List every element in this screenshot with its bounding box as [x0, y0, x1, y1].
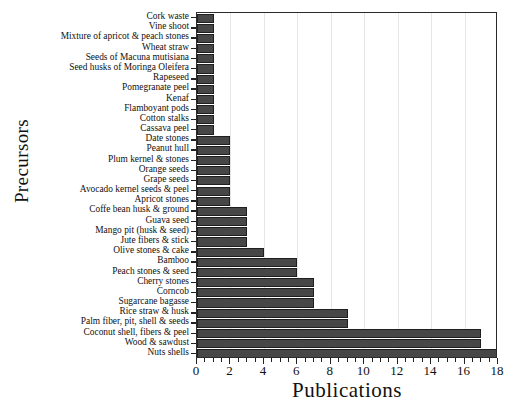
- bar[interactable]: [197, 75, 214, 84]
- bar[interactable]: [197, 24, 214, 33]
- bar-row[interactable]: [197, 227, 497, 236]
- x-axis-minor-tick: [413, 358, 414, 362]
- bar[interactable]: [197, 105, 214, 114]
- x-axis-minor-tick: [288, 358, 289, 362]
- bar-row[interactable]: [197, 217, 497, 226]
- bar[interactable]: [197, 298, 314, 307]
- bar-row[interactable]: [197, 115, 497, 124]
- bar-row[interactable]: [197, 95, 497, 104]
- category-label: Seed husks of Moringa Oleifera: [69, 63, 189, 73]
- bar[interactable]: [197, 288, 314, 297]
- bar[interactable]: [197, 125, 214, 134]
- y-axis-tick: [191, 17, 196, 18]
- bar[interactable]: [197, 268, 297, 277]
- bar[interactable]: [197, 258, 297, 267]
- bar[interactable]: [197, 34, 214, 43]
- category-label: Wheat straw: [142, 43, 189, 53]
- bar-chart: Precursors Cork wasteVine shootMixture o…: [0, 0, 515, 409]
- category-label: Bamboo: [157, 256, 189, 266]
- x-axis-tick-labels: 024681012141618: [196, 363, 498, 379]
- bar-row[interactable]: [197, 156, 497, 165]
- bar-row[interactable]: [197, 319, 497, 328]
- x-axis-minor-tick: [238, 358, 239, 362]
- bar-row[interactable]: [197, 176, 497, 185]
- category-label: Coconut shell, fibers & peel: [84, 328, 189, 338]
- bar[interactable]: [197, 64, 214, 73]
- bar-row[interactable]: [197, 34, 497, 43]
- y-axis-tick: [191, 180, 196, 181]
- bar-row[interactable]: [197, 24, 497, 33]
- bar-row[interactable]: [197, 44, 497, 53]
- bar[interactable]: [197, 329, 481, 338]
- y-axis-tick: [191, 272, 196, 273]
- x-axis-tick-label: 8: [327, 363, 334, 379]
- bar[interactable]: [197, 187, 230, 196]
- x-axis-minor-tick: [380, 358, 381, 362]
- bar[interactable]: [197, 237, 247, 246]
- bar[interactable]: [197, 207, 247, 216]
- bar-row[interactable]: [197, 268, 497, 277]
- bar[interactable]: [197, 248, 264, 257]
- bar[interactable]: [197, 95, 214, 104]
- bar-row[interactable]: [197, 278, 497, 287]
- bar[interactable]: [197, 115, 214, 124]
- bar[interactable]: [197, 319, 348, 328]
- bar[interactable]: [197, 197, 230, 206]
- bar-row[interactable]: [197, 349, 497, 358]
- bar-row[interactable]: [197, 136, 497, 145]
- y-axis-tick: [191, 302, 196, 303]
- bar-row[interactable]: [197, 75, 497, 84]
- x-axis-tick-label: 6: [293, 363, 300, 379]
- bar[interactable]: [197, 217, 247, 226]
- category-label: Orange seeds: [139, 165, 189, 175]
- category-label: Palm fiber, pit, shell & seeds: [81, 317, 189, 327]
- bar-row[interactable]: [197, 14, 497, 23]
- category-label: Cork waste: [147, 12, 189, 22]
- bar[interactable]: [197, 44, 214, 53]
- bar-row[interactable]: [197, 288, 497, 297]
- bar-row[interactable]: [197, 166, 497, 175]
- category-label: Vine shoot: [149, 22, 189, 32]
- bar-row[interactable]: [197, 329, 497, 338]
- bar-row[interactable]: [197, 187, 497, 196]
- bar[interactable]: [197, 85, 214, 94]
- category-label-list: Cork wasteVine shootMixture of apricot &…: [0, 12, 193, 358]
- bar[interactable]: [197, 156, 230, 165]
- bar[interactable]: [197, 349, 497, 358]
- x-axis-minor-tick: [246, 358, 247, 362]
- y-axis-tick: [191, 78, 196, 79]
- bar[interactable]: [197, 339, 481, 348]
- bar-row[interactable]: [197, 105, 497, 114]
- bar-row[interactable]: [197, 339, 497, 348]
- bar[interactable]: [197, 166, 230, 175]
- bar-row[interactable]: [197, 309, 497, 318]
- x-axis-minor-tick: [422, 358, 423, 362]
- x-axis-tick-label: 18: [491, 363, 504, 379]
- bar-row[interactable]: [197, 207, 497, 216]
- bar[interactable]: [197, 146, 230, 155]
- bar-row[interactable]: [197, 248, 497, 257]
- x-axis-minor-tick: [313, 358, 314, 362]
- bar[interactable]: [197, 309, 348, 318]
- y-axis-tick: [191, 210, 196, 211]
- bar[interactable]: [197, 176, 230, 185]
- bar[interactable]: [197, 14, 214, 23]
- bar[interactable]: [197, 136, 230, 145]
- y-axis-tick: [191, 68, 196, 69]
- bar-row[interactable]: [197, 197, 497, 206]
- bar[interactable]: [197, 227, 247, 236]
- bar-row[interactable]: [197, 258, 497, 267]
- bar[interactable]: [197, 278, 314, 287]
- bar-row[interactable]: [197, 64, 497, 73]
- bar-row[interactable]: [197, 125, 497, 134]
- category-label: Wood & sawdust: [125, 338, 189, 348]
- bar-row[interactable]: [197, 54, 497, 63]
- plot-area: [196, 12, 497, 358]
- bar-row[interactable]: [197, 237, 497, 246]
- x-axis-tick-label: 14: [424, 363, 437, 379]
- bar-row[interactable]: [197, 146, 497, 155]
- bar[interactable]: [197, 54, 214, 63]
- bar-row[interactable]: [197, 85, 497, 94]
- x-axis-minor-tick: [447, 358, 448, 362]
- bar-row[interactable]: [197, 298, 497, 307]
